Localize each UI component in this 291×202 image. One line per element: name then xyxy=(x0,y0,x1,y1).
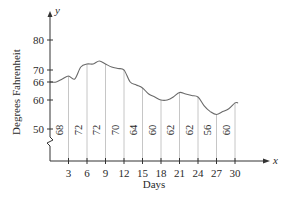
vertical-line-label: 70 xyxy=(110,125,121,136)
y-tick-label: 80 xyxy=(33,34,45,46)
vertical-line-label: 56 xyxy=(202,125,213,136)
vertical-line-label: 68 xyxy=(54,125,65,136)
y-tick-label: 66 xyxy=(33,76,45,88)
vertical-reference-lines xyxy=(69,64,236,161)
vertical-line-label: 64 xyxy=(128,124,139,135)
y-tick-label: 60 xyxy=(33,94,45,106)
vertical-line-label: 60 xyxy=(221,125,232,136)
vertical-line-label: 62 xyxy=(184,125,195,136)
vertical-line-label: 72 xyxy=(73,125,84,136)
x-tick-label: 30 xyxy=(230,167,242,179)
x-tick-label: 6 xyxy=(84,167,90,179)
x-tick-label: 21 xyxy=(174,167,185,179)
x-tick-label: 3 xyxy=(66,167,72,179)
y-tick-label: 70 xyxy=(33,64,45,76)
vertical-line-labels: 68727270646062625660 xyxy=(54,124,232,135)
x-tick-label: 9 xyxy=(103,167,109,179)
y-axis xyxy=(47,16,53,161)
x-tick-label: 27 xyxy=(211,167,223,179)
x-tick-label: 24 xyxy=(193,167,205,179)
vertical-line-label: 62 xyxy=(165,125,176,136)
y-axis-label: Degrees Fahrenheit xyxy=(10,49,22,135)
y-tick-label: 50 xyxy=(33,123,45,135)
x-axis-letter: x xyxy=(272,154,278,166)
vertical-line-label: 72 xyxy=(91,125,102,136)
x-axis-arrow-icon xyxy=(263,159,270,164)
temperature-curve xyxy=(50,61,238,115)
x-tick-label: 12 xyxy=(119,167,130,179)
y-axis-letter: y xyxy=(54,4,60,16)
vertical-line-label: 60 xyxy=(147,125,158,136)
temperature-line-chart: y 5060667080 Degrees Fahrenheit x 369121… xyxy=(0,0,291,202)
y-axis-arrow-icon xyxy=(48,11,53,17)
x-axis-label: Days xyxy=(143,178,166,190)
